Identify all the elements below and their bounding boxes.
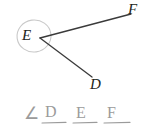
ray-ef — [40, 14, 131, 38]
answer-letter-f: F — [107, 105, 116, 121]
handwritten-answer-marks — [42, 122, 130, 123]
answer-letter-e: E — [76, 105, 86, 121]
answer-angle-symbol: ∠ — [24, 105, 39, 122]
underline-e — [73, 122, 97, 123]
geometry-figure: E F D ∠ D E F — [0, 0, 148, 127]
underline-d — [42, 122, 66, 123]
underline-f — [104, 122, 130, 123]
point-label-e: E — [22, 28, 31, 43]
ray-ed — [40, 38, 92, 77]
answer-letter-d: D — [45, 104, 57, 120]
point-label-d: D — [90, 77, 101, 92]
point-label-f: F — [128, 2, 137, 17]
figure-canvas — [0, 0, 148, 127]
